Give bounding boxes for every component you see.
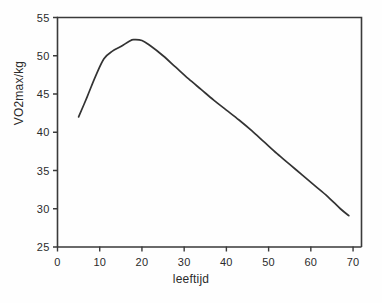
- y-axis-title: VO2max/kg: [12, 48, 26, 138]
- chart-figure: 25303540455055 010203040506070 VO2max/kg…: [0, 0, 382, 303]
- y-tick-label: 35: [25, 165, 50, 177]
- y-tick-label: 55: [25, 12, 50, 24]
- y-tick-label: 50: [25, 50, 50, 62]
- y-tick-label: 30: [25, 203, 50, 215]
- x-tick-label: 50: [262, 256, 275, 268]
- data-series-group: [79, 40, 349, 216]
- y-tick-label: 25: [25, 241, 50, 253]
- x-tick-label: 60: [305, 256, 318, 268]
- y-tick-label: 40: [25, 126, 50, 138]
- x-tick-label: 70: [347, 256, 360, 268]
- x-tick-label: 10: [93, 256, 106, 268]
- x-tick-label: 30: [178, 256, 191, 268]
- series-line-vo2max: [79, 40, 349, 216]
- x-tick-label: 40: [220, 256, 233, 268]
- axis-ticks: [53, 18, 353, 252]
- axis-frame-path: [58, 18, 362, 248]
- y-tick-label: 45: [25, 88, 50, 100]
- plot-frame: [58, 18, 362, 248]
- x-tick-label: 0: [54, 256, 60, 268]
- x-tick-label: 20: [136, 256, 149, 268]
- x-axis-title: leeftijd: [0, 272, 382, 286]
